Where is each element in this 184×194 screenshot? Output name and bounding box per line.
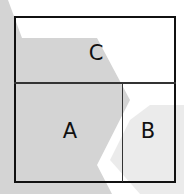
square-left-border (14, 16, 16, 183)
square-right-border (174, 16, 176, 183)
region-a-label: A (63, 121, 77, 142)
square-bottom-border (14, 181, 176, 183)
square-top-border (14, 16, 176, 18)
dark-chevron-shape (0, 0, 130, 194)
region-b-label: B (141, 121, 155, 142)
vertical-divider (122, 82, 124, 182)
background-chevrons (0, 0, 184, 194)
region-c-label: C (89, 43, 104, 64)
horizontal-divider (14, 82, 176, 84)
